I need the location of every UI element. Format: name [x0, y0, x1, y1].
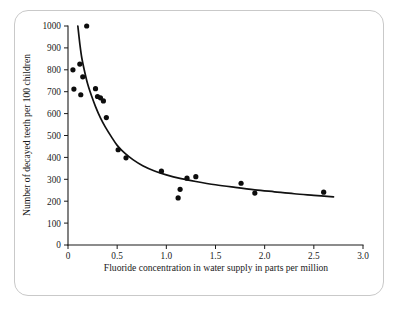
x-tick-label: 1.0 [161, 251, 173, 261]
x-axis-ticks [68, 245, 363, 249]
fitted-decay-curve [78, 26, 334, 197]
data-point [184, 176, 189, 181]
y-axis-title: Number of decayed teeth per 100 children [21, 54, 32, 216]
data-point [77, 62, 82, 67]
x-tick-label: 1.5 [210, 251, 222, 261]
y-tick-label: 200 [47, 197, 61, 207]
x-tick-label: 2.5 [308, 251, 320, 261]
x-tick-label: 0.5 [111, 251, 123, 261]
scatter-data-points [70, 23, 326, 200]
chart-svg: 01002003004005006007008009001000 00.51.0… [0, 0, 398, 309]
y-axis-tick-labels: 01002003004005006007008009001000 [42, 21, 61, 250]
y-tick-label: 900 [47, 43, 61, 53]
data-point [101, 98, 106, 103]
y-tick-label: 0 [56, 240, 61, 250]
x-tick-label: 2.0 [259, 251, 271, 261]
y-tick-label: 400 [47, 153, 61, 163]
x-tick-label: 3.0 [357, 251, 369, 261]
x-axis-tick-labels: 00.51.01.52.02.53.0 [66, 251, 369, 261]
x-axis-title: Fluoride concentration in water supply i… [104, 262, 329, 273]
data-point [80, 74, 85, 79]
data-point [176, 195, 181, 200]
data-point [159, 169, 164, 174]
data-point [93, 86, 98, 91]
data-point [70, 67, 75, 72]
x-tick-label: 0 [66, 251, 71, 261]
y-tick-label: 300 [47, 175, 61, 185]
data-point [78, 92, 83, 97]
y-tick-label: 700 [47, 87, 61, 97]
data-point [193, 174, 198, 179]
data-point [178, 187, 183, 192]
data-point [71, 86, 76, 91]
data-point [238, 181, 243, 186]
y-tick-label: 500 [47, 131, 61, 141]
y-tick-label: 100 [47, 219, 61, 229]
y-axis-ticks [64, 26, 68, 245]
data-point [321, 190, 326, 195]
data-point [116, 147, 121, 152]
y-tick-label: 800 [47, 65, 61, 75]
data-point [104, 115, 109, 120]
y-tick-label: 600 [47, 109, 61, 119]
data-point [252, 191, 257, 196]
scatter-chart: 01002003004005006007008009001000 00.51.0… [0, 0, 398, 309]
data-point [123, 155, 128, 160]
y-tick-label: 1000 [42, 21, 61, 31]
data-point [84, 23, 89, 28]
